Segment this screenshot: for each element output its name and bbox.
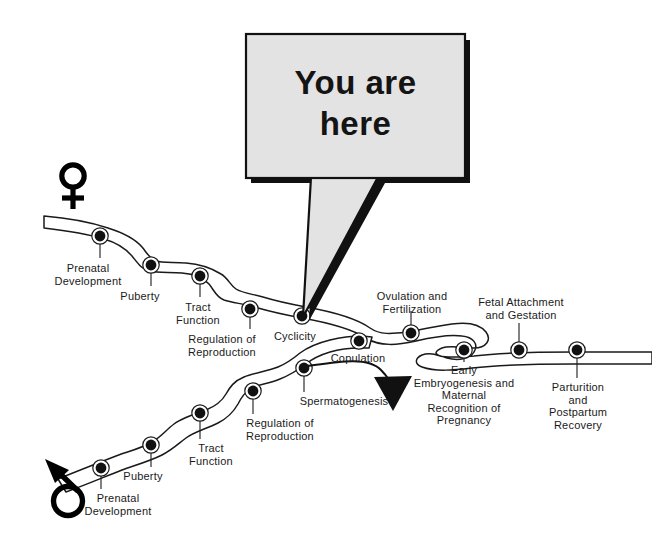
station-dot-puberty-m[interactable] (143, 437, 159, 453)
station-dot-puberty-f[interactable] (143, 257, 159, 273)
station-dot-regulation-of-reproduction-f[interactable] (242, 301, 258, 317)
male-leader-lines (101, 373, 304, 489)
station-dot-ovulation-and-fertilization[interactable] (403, 325, 419, 341)
station-dot-spermatogenesis[interactable] (296, 360, 312, 376)
station-dot-prenatal-development-m[interactable] (93, 460, 109, 476)
station-dot-tract-function-f[interactable] (192, 268, 208, 284)
callout-tail (303, 177, 378, 317)
station-dot-tract-function-m[interactable] (192, 405, 208, 421)
station-dot-copulation[interactable] (351, 333, 367, 349)
male-symbol (45, 459, 83, 516)
diagram-canvas: You are here Prenatal Development Pubert… (0, 0, 652, 547)
callout-text: You are here (246, 62, 465, 144)
station-dot-fetal-attachment-and-gestation[interactable] (511, 342, 527, 358)
flow-arrow-head (374, 376, 412, 411)
station-dot-early-embryogenesis[interactable] (456, 342, 472, 358)
station-dot-regulation-of-reproduction-m[interactable] (245, 383, 261, 399)
station-dot-prenatal-development-f[interactable] (92, 228, 108, 244)
copulation-to-pregnancy-arrow (308, 361, 412, 411)
female-symbol (62, 165, 84, 209)
station-dot-parturition-and-postpartum-recovery[interactable] (569, 342, 585, 358)
